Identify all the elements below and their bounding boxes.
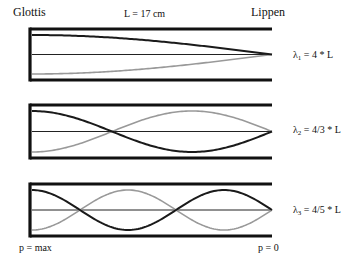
pressure-wave-curve: [32, 35, 272, 55]
tube-mode-1: [30, 28, 272, 82]
velocity-wave-curve: [32, 55, 272, 75]
tube-mode-3: [30, 183, 272, 238]
lambda-1-label: λ1 = 4 * L: [293, 49, 333, 62]
tube-mode-2: [30, 104, 272, 160]
lambda-2-label: λ2 = 4/3 * L: [293, 124, 341, 137]
pressure-max-label: p = max: [19, 242, 52, 253]
pressure-zero-label: p = 0: [258, 242, 279, 253]
lambda-3-label: λ3 = 4/5 * L: [293, 204, 341, 217]
